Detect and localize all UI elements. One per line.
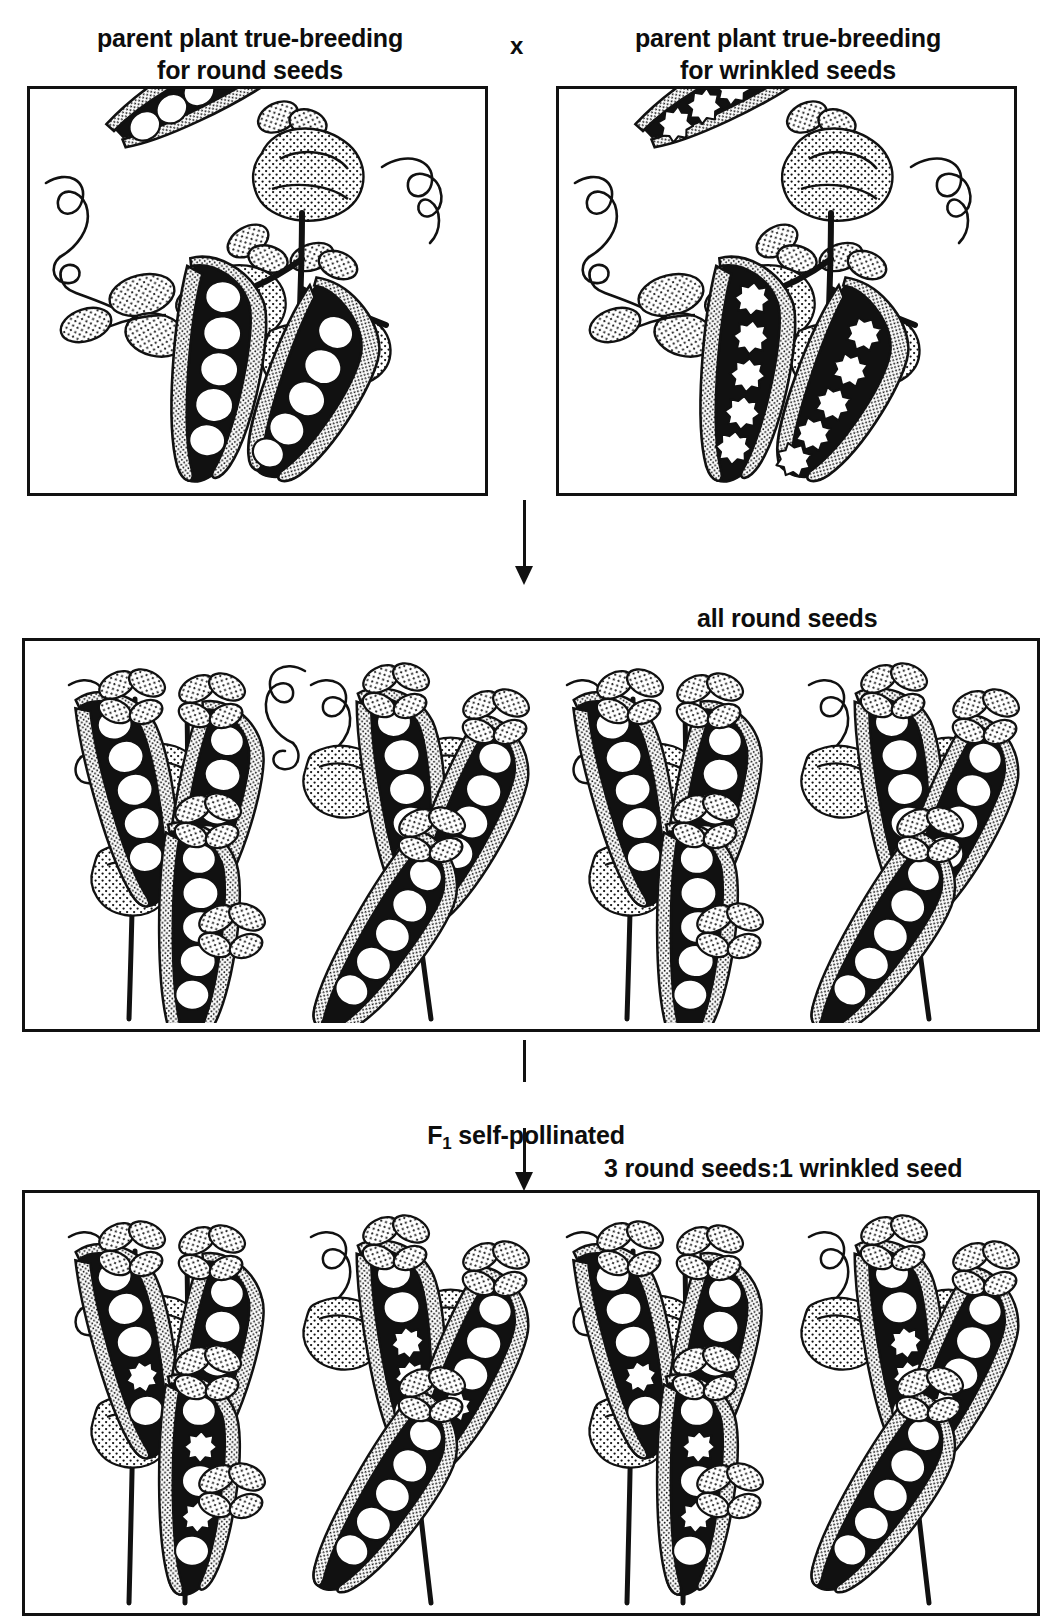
self-pollinated-prefix: F <box>427 1121 442 1149</box>
round-pea-plant-illustration <box>30 89 479 487</box>
f2-panel <box>22 1190 1040 1616</box>
f1-panel <box>22 638 1040 1032</box>
parent-right-label: parent plant true-breeding for wrinkled … <box>578 22 998 86</box>
self-pollinated-tail: self-pollinated <box>452 1121 625 1149</box>
cross-symbol: x <box>510 32 523 60</box>
f2-population-illustration <box>25 1193 1031 1607</box>
self-pollinated-label: F1 self-pollinated <box>366 1087 686 1155</box>
parent-round-panel <box>27 86 488 496</box>
f1-result-label: all round seeds <box>697 602 1037 634</box>
parent-left-label: parent plant true-breeding for round see… <box>40 22 460 86</box>
arrow-parent-to-f1-head <box>515 566 533 585</box>
self-pollinated-subscript: 1 <box>442 1134 451 1153</box>
parent-wrinkled-panel <box>556 86 1017 496</box>
f1-population-illustration <box>25 641 1031 1023</box>
f1-self-pollination-shaft-upper <box>523 1040 526 1082</box>
wrinkled-pea-plant-illustration <box>559 89 1008 487</box>
f2-result-label: 3 round seeds:1 wrinkled seed <box>604 1152 1044 1184</box>
arrow-parent-to-f1-shaft <box>523 500 526 570</box>
